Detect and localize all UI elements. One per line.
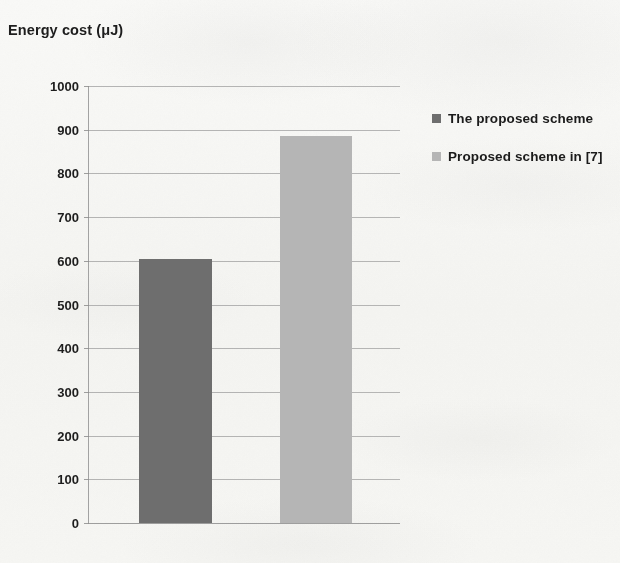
gridline-200 (88, 436, 400, 437)
tick-mark-1000 (84, 86, 89, 87)
y-axis-tick-labels: 1000 900 800 700 600 500 400 300 200 100… (0, 86, 79, 523)
y-tick-label-800: 800 (1, 166, 79, 181)
gridline-100 (88, 479, 400, 480)
tick-mark-400 (84, 348, 89, 349)
legend-square-icon (432, 152, 441, 161)
legend: The proposed scheme Proposed scheme in [… (432, 106, 618, 182)
y-tick-label-700: 700 (1, 210, 79, 225)
y-tick-label-400: 400 (1, 341, 79, 356)
y-tick-label-0: 0 (1, 516, 79, 531)
gridline-900 (88, 130, 400, 131)
chart-title: Energy cost (μJ) (8, 22, 123, 38)
legend-item-proposed-scheme-in-7[interactable]: Proposed scheme in [7] (432, 144, 618, 168)
chart-page: Energy cost (μJ) 1000 900 800 700 600 50… (0, 0, 620, 563)
bar-the-proposed-scheme[interactable] (139, 259, 212, 523)
gridline-600 (88, 261, 400, 262)
bar-proposed-scheme-in-7[interactable] (280, 136, 352, 523)
gridline-1000 (88, 86, 400, 87)
legend-item-label: Proposed scheme in [7] (448, 149, 603, 164)
y-tick-label-1000: 1000 (1, 79, 79, 94)
tick-mark-300 (84, 392, 89, 393)
legend-item-label: The proposed scheme (448, 111, 593, 126)
gridline-0-baseline (88, 523, 400, 524)
gridline-700 (88, 217, 400, 218)
gridline-300 (88, 392, 400, 393)
plot-area (88, 86, 400, 523)
gridline-400 (88, 348, 400, 349)
tick-mark-500 (84, 305, 89, 306)
tick-mark-0 (84, 523, 89, 524)
tick-mark-600 (84, 261, 89, 262)
tick-mark-700 (84, 217, 89, 218)
tick-mark-900 (84, 130, 89, 131)
gridline-500 (88, 305, 400, 306)
legend-square-icon (432, 114, 441, 123)
tick-mark-800 (84, 173, 89, 174)
tick-mark-100 (84, 479, 89, 480)
y-tick-label-900: 900 (1, 122, 79, 137)
y-tick-label-300: 300 (1, 384, 79, 399)
y-tick-label-100: 100 (1, 472, 79, 487)
y-tick-label-600: 600 (1, 253, 79, 268)
y-tick-label-500: 500 (1, 297, 79, 312)
y-tick-label-200: 200 (1, 428, 79, 443)
legend-item-the-proposed-scheme[interactable]: The proposed scheme (432, 106, 618, 130)
gridline-800 (88, 173, 400, 174)
tick-mark-200 (84, 436, 89, 437)
